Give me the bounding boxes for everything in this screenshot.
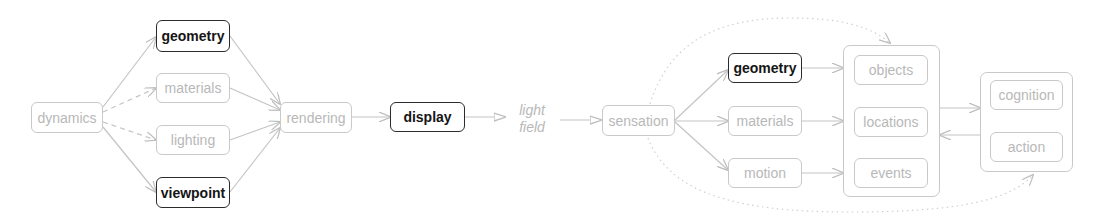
edge-sensation-motion	[675, 122, 728, 170]
node-geometry-label: geometry	[161, 28, 224, 44]
node-objects-label: objects	[869, 62, 913, 78]
node-lighting-label: lighting	[171, 132, 215, 148]
node-locations: locations	[854, 107, 928, 137]
node-cognition-label: cognition	[998, 87, 1054, 103]
edge-dynamics-materials	[103, 88, 156, 112]
edge-materials-rendering	[230, 88, 280, 110]
node-locations-label: locations	[863, 114, 918, 130]
node-geometry-2-label: geometry	[733, 60, 796, 76]
edge-sensation-geometry	[675, 70, 728, 120]
node-display-label: display	[403, 109, 451, 125]
node-motion-label: motion	[744, 165, 786, 181]
node-dynamics: dynamics	[31, 102, 103, 133]
node-viewpoint-label: viewpoint	[161, 185, 226, 201]
node-viewpoint: viewpoint	[156, 177, 230, 208]
node-events: events	[854, 158, 928, 188]
node-materials-2: materials	[728, 106, 802, 136]
node-rendering-label: rendering	[286, 110, 345, 126]
node-materials: materials	[156, 73, 230, 103]
light-field-label: light field	[502, 102, 562, 136]
node-events-label: events	[870, 165, 911, 181]
node-objects: objects	[854, 55, 928, 85]
edge-geometry-rendering	[230, 36, 280, 104]
node-geometry: geometry	[156, 20, 230, 52]
node-cognition: cognition	[990, 80, 1063, 110]
node-action: action	[990, 132, 1063, 162]
light-field-line1: light	[502, 102, 562, 119]
node-sensation-label: sensation	[609, 113, 669, 129]
node-display: display	[390, 102, 465, 132]
light-field-line2: field	[502, 119, 562, 136]
node-rendering: rendering	[280, 102, 352, 133]
node-materials-2-label: materials	[737, 113, 794, 129]
node-materials-label: materials	[165, 80, 222, 96]
diagram-canvas: dynamics geometry materials lighting vie…	[0, 0, 1098, 223]
node-lighting: lighting	[156, 125, 230, 155]
node-geometry-2: geometry	[728, 53, 802, 83]
node-motion: motion	[728, 158, 802, 188]
node-sensation: sensation	[602, 105, 675, 136]
node-dynamics-label: dynamics	[37, 110, 96, 126]
edge-dynamics-geometry	[103, 37, 156, 107]
node-action-label: action	[1008, 139, 1045, 155]
